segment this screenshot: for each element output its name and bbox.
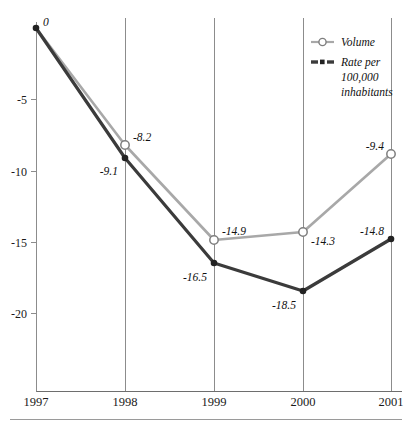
legend-label-volume: Volume (341, 36, 375, 48)
value-label-volume-2000: -14.3 (311, 235, 335, 247)
legend-label-rate-line2: 100,000 (341, 71, 379, 84)
data-point-rate-1998 (122, 155, 129, 162)
value-label-rate-1998: -9.1 (100, 165, 118, 177)
data-point-volume-1999 (210, 236, 218, 244)
y-tick-label-minus20: -20 (11, 307, 27, 321)
y-tick-label-minus15: -15 (11, 236, 27, 250)
value-label-rate-1999: -16.5 (183, 271, 207, 283)
value-label-volume-2001: -9.4 (366, 140, 384, 152)
data-point-volume-2000 (299, 228, 307, 236)
data-point-volume-1998 (121, 141, 129, 149)
value-label-origin-1997: 0 (43, 16, 49, 28)
value-label-rate-2000: -18.5 (272, 299, 296, 311)
data-point-origin-1997 (33, 25, 40, 32)
legend-label-rate-line1: Rate per (340, 56, 381, 69)
chart-plot-area: -5 -10 -15 -20 1997 1998 1999 2000 2001 (0, 0, 412, 427)
x-tick-label-2000: 2000 (291, 395, 316, 409)
y-tick-label-minus10: -10 (11, 165, 27, 179)
legend-label-rate-line3: inhabitants (341, 86, 393, 98)
value-label-volume-1999: -14.9 (222, 225, 246, 237)
data-point-rate-2000 (300, 288, 307, 295)
x-tick-label-2001: 2001 (379, 395, 404, 409)
data-point-rate-2001 (388, 236, 395, 243)
y-tick-label-minus5: -5 (17, 93, 27, 107)
legend-marker-filled-square-icon (320, 60, 325, 65)
data-point-volume-2001 (387, 150, 395, 158)
legend-marker-open-circle-icon (319, 38, 326, 45)
x-tick-label-1997: 1997 (24, 395, 49, 409)
line-chart-figure: -5 -10 -15 -20 1997 1998 1999 2000 2001 (0, 0, 412, 427)
value-label-rate-2001: -14.8 (360, 225, 384, 237)
x-tick-label-1999: 1999 (202, 395, 227, 409)
data-point-rate-1999 (211, 260, 218, 267)
x-tick-label-1998: 1998 (113, 395, 138, 409)
value-label-volume-1998: -8.2 (133, 131, 151, 143)
